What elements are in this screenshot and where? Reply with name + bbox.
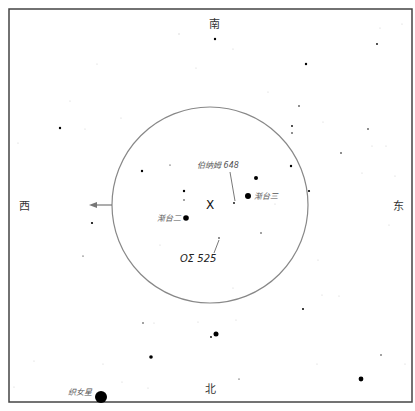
star [380,354,381,355]
star [214,332,219,337]
direction-west: 西 [19,200,30,213]
star [305,63,307,65]
star-chart: 南 北 西 东 X 伯纳姆 648 ΟΣ 525 渐台二 渐台三 织女星 [0,0,415,411]
label-jiantai-2: 渐台二 [157,214,182,223]
star [141,170,143,172]
star [169,164,170,165]
star [254,176,258,180]
star [183,190,185,192]
star [302,308,304,310]
star [142,322,143,323]
label-vega: 织女星 [68,388,93,397]
star [359,377,364,382]
star [298,105,300,107]
star [308,190,310,192]
label-os-525: ΟΣ 525 [180,253,216,264]
star [291,132,293,134]
star [183,199,184,200]
label-jiantai-3: 渐台三 [254,192,279,201]
star [290,165,292,167]
star [210,336,212,338]
direction-east: 东 [393,200,404,213]
star [82,255,83,256]
star [245,193,251,199]
star [183,215,189,221]
star [260,232,261,233]
star [214,38,216,40]
star [233,202,235,204]
star [367,128,369,130]
star [291,125,293,127]
star [238,378,239,379]
direction-south: 南 [209,18,220,31]
star [59,127,61,129]
star [218,237,220,239]
star [95,391,107,403]
label-bernham-648: 伯纳姆 648 [197,161,239,170]
star [91,222,93,224]
star [376,43,378,45]
star [340,152,342,154]
center-marker: X [206,198,214,212]
star [149,355,153,359]
direction-north: 北 [205,383,216,396]
